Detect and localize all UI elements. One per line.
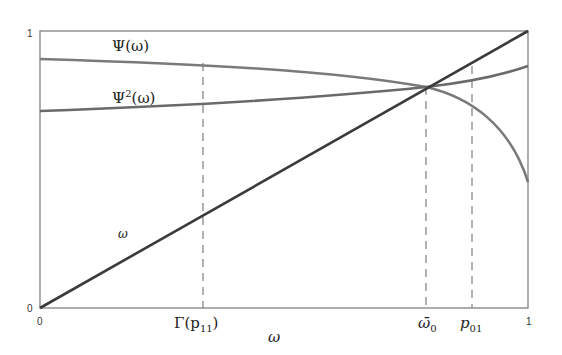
x-tick-1: 1 (526, 316, 532, 327)
omega-diagonal-line (40, 31, 528, 308)
p01-label: p01 (460, 314, 482, 334)
omega-line-label: ω (118, 227, 128, 241)
psi-curve (40, 59, 528, 182)
x-axis-label: ω (268, 328, 280, 346)
chart: Ψ(ω) Ψ2(ω) ω 1 0 0 1 Γ(p11) ω̄0 p01 ω (0, 0, 562, 355)
y-tick-1: 1 (27, 28, 33, 39)
x-tick-0: 0 (37, 316, 43, 327)
psi-squared-label: Ψ2(ω) (112, 88, 155, 107)
y-tick-0: 0 (27, 303, 33, 314)
gamma-p11-label: Γ(p11) (174, 314, 218, 334)
psi-label: Ψ(ω) (112, 37, 149, 55)
omega0-label: ω̄0 (418, 314, 437, 334)
